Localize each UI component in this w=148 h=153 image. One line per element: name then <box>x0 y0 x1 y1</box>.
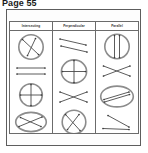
circle-with-two-intersecting-lines-icon <box>16 33 46 61</box>
column-header-perpendicular: Perpendicular <box>52 22 95 30</box>
figure-cell[interactable] <box>96 60 138 82</box>
figure-cell[interactable] <box>53 86 95 108</box>
column-parallel <box>95 31 138 133</box>
table-header-row: Intersecting Perpendicular Parallel <box>10 22 138 31</box>
figure-cell[interactable] <box>96 82 138 110</box>
column-intersecting <box>10 31 52 133</box>
column-perpendicular <box>52 31 95 133</box>
circle-with-perpendicular-cross-icon <box>17 82 45 108</box>
figure-cell[interactable] <box>10 61 52 81</box>
ellipse-with-two-intersecting-lines-icon <box>13 110 49 134</box>
column-header-intersecting: Intersecting <box>10 22 52 30</box>
page-title: Page 55 <box>2 0 37 8</box>
figure-cell[interactable] <box>10 81 52 108</box>
two-crossing-lines-x-icon <box>56 88 92 106</box>
figure-cell[interactable] <box>96 110 138 133</box>
two-non-parallel-diagonal-lines-icon <box>99 112 135 133</box>
circle-with-perpendicular-cross-icon <box>59 58 89 85</box>
figure-cell[interactable] <box>10 31 52 61</box>
circle-with-two-intersecting-lines-icon <box>59 109 89 134</box>
circle-with-two-vertical-parallel-lines-icon <box>102 33 132 60</box>
figure-cell[interactable] <box>10 108 52 133</box>
sheet-bottom-blank-strip <box>7 134 140 145</box>
ellipse-with-two-parallel-diagonal-lines-icon <box>98 84 136 109</box>
worksheet-page: Page 55 Intersecting Perpendicular Paral… <box>0 0 148 153</box>
sheet-top-blank-strip <box>7 10 140 21</box>
figure-cell[interactable] <box>53 108 95 133</box>
figure-cell[interactable] <box>96 31 138 60</box>
worksheet-sheet: Intersecting Perpendicular Parallel <box>6 9 141 146</box>
two-parallel-diagonal-lines-icon <box>56 34 92 56</box>
line-relationship-table: Intersecting Perpendicular Parallel <box>9 21 139 134</box>
column-header-parallel: Parallel <box>95 22 138 30</box>
table-body-row <box>10 31 138 133</box>
two-crossing-lines-x-icon <box>100 62 134 80</box>
figure-cell[interactable] <box>53 57 95 86</box>
two-parallel-horizontal-lines-icon <box>14 63 48 79</box>
figure-cell[interactable] <box>53 31 95 57</box>
